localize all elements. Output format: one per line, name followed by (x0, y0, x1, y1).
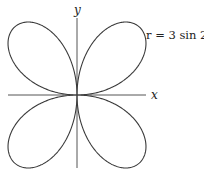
plot-canvas: x y r = 3 sin 2θ (0, 0, 204, 174)
y-axis-label: y (73, 3, 81, 17)
x-axis-label: x (151, 88, 158, 102)
polar-rose-figure: x y r = 3 sin 2θ (0, 0, 204, 174)
equation-label: r = 3 sin 2θ (146, 28, 204, 42)
